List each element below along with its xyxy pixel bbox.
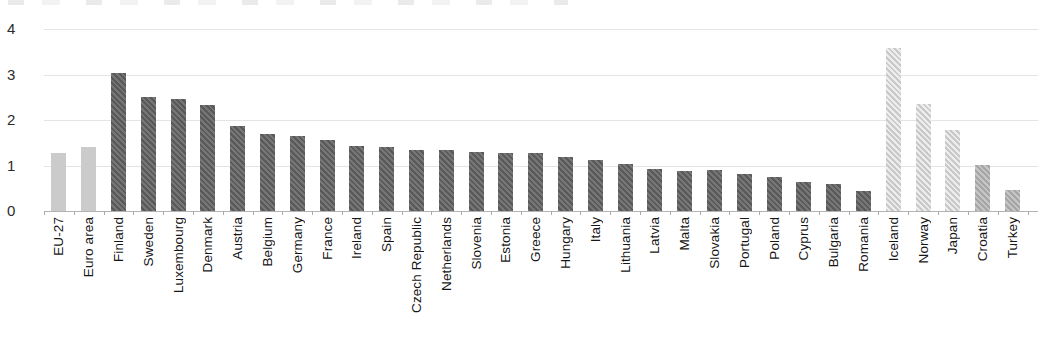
x-label-text: EU-27 — [51, 217, 66, 256]
bar-estonia — [498, 153, 513, 211]
bar-euro-area — [81, 147, 96, 211]
x-axis-tick — [521, 211, 522, 215]
x-label-france: France — [312, 217, 342, 349]
gridline-4 — [44, 29, 1038, 30]
x-axis-tick — [908, 211, 909, 215]
x-label-text: Bulgaria — [826, 217, 841, 267]
bar-czech-republic — [409, 150, 424, 211]
x-axis-tick — [819, 211, 820, 215]
x-label-text: Malta — [677, 217, 692, 251]
x-axis-tick — [44, 211, 45, 215]
x-axis-tick — [163, 211, 164, 215]
bar-eu-27 — [51, 153, 66, 211]
x-label-cyprus: Cyprus — [789, 217, 819, 349]
bar-spain — [379, 147, 394, 211]
bar-austria — [230, 126, 245, 211]
x-label-text: Cyprus — [796, 217, 811, 260]
x-label-text: Netherlands — [439, 217, 454, 291]
x-label-text: Slovenia — [469, 217, 484, 270]
bar-netherlands — [439, 150, 454, 211]
bar-turkey — [1005, 190, 1020, 211]
y-tick-label-3: 3 — [7, 67, 35, 83]
x-label-bulgaria: Bulgaria — [819, 217, 849, 349]
x-axis-tick — [551, 211, 552, 215]
x-label-text: Germany — [290, 217, 305, 273]
x-axis-tick — [133, 211, 134, 215]
x-axis-tick — [342, 211, 343, 215]
x-label-text: Finland — [111, 217, 126, 262]
x-label-text: Denmark — [200, 217, 215, 272]
bar-denmark — [200, 105, 215, 211]
x-axis-tick — [461, 211, 462, 215]
x-axis-tick — [74, 211, 75, 215]
bar-ireland — [349, 146, 364, 211]
x-label-turkey: Turkey — [998, 217, 1028, 349]
x-axis-tick — [491, 211, 492, 215]
x-label-finland: Finland — [104, 217, 134, 349]
x-label-text: Turkey — [1005, 217, 1020, 258]
x-axis-tick — [253, 211, 254, 215]
x-label-slovakia: Slovakia — [700, 217, 730, 349]
x-label-text: Belgium — [260, 217, 275, 266]
x-label-portugal: Portugal — [729, 217, 759, 349]
x-label-slovenia: Slovenia — [461, 217, 491, 349]
x-label-text: Portugal — [737, 217, 752, 268]
x-axis-tick — [849, 211, 850, 215]
bar-greece — [528, 153, 543, 211]
x-axis-tick — [998, 211, 999, 215]
x-label-text: Romania — [856, 217, 871, 272]
x-label-lithuania: Lithuania — [610, 217, 640, 349]
bar-malta — [677, 171, 692, 211]
x-axis-tick — [759, 211, 760, 215]
x-label-text: Croatia — [975, 217, 990, 261]
x-label-text: Euro area — [81, 217, 96, 277]
x-axis-tick — [729, 211, 730, 215]
x-label-text: Lithuania — [618, 217, 633, 273]
x-label-text: France — [320, 217, 335, 260]
y-tick-label-4: 4 — [7, 21, 35, 37]
x-label-greece: Greece — [521, 217, 551, 349]
x-label-text: Latvia — [647, 217, 662, 254]
cropped-text-remnant — [8, 0, 568, 5]
bar-latvia — [647, 169, 662, 211]
x-label-poland: Poland — [759, 217, 789, 349]
bar-iceland — [886, 48, 901, 211]
x-label-text: Norway — [916, 217, 931, 263]
x-label-iceland: Iceland — [878, 217, 908, 349]
x-label-text: Poland — [767, 217, 782, 260]
x-axis-tick — [640, 211, 641, 215]
x-axis-tick — [700, 211, 701, 215]
x-axis-tick — [372, 211, 373, 215]
x-label-text: Luxembourg — [171, 217, 186, 293]
x-label-text: Slovakia — [707, 217, 722, 269]
bar-lithuania — [618, 164, 633, 211]
x-label-text: Austria — [230, 217, 245, 260]
y-tick-label-1: 1 — [7, 158, 35, 174]
x-label-text: Czech Republic — [409, 217, 424, 313]
x-label-text: Sweden — [141, 217, 156, 266]
x-label-japan: Japan — [938, 217, 968, 349]
x-label-denmark: Denmark — [193, 217, 223, 349]
bar-belgium — [260, 134, 275, 211]
y-tick-label-2: 2 — [7, 112, 35, 128]
x-axis-tick — [1028, 211, 1029, 215]
x-label-eu-27: EU-27 — [44, 217, 74, 349]
bar-germany — [290, 136, 305, 211]
x-axis-tick — [312, 211, 313, 215]
x-label-norway: Norway — [908, 217, 938, 349]
x-label-text: Japan — [945, 217, 960, 254]
x-label-croatia: Croatia — [968, 217, 998, 349]
x-axis-tick — [193, 211, 194, 215]
x-label-text: Spain — [379, 217, 394, 252]
x-label-text: Estonia — [498, 217, 513, 263]
x-label-text: Hungary — [558, 217, 573, 269]
bar-japan — [945, 130, 960, 211]
x-axis-tick — [223, 211, 224, 215]
bar-romania — [856, 191, 871, 211]
x-axis-tick — [968, 211, 969, 215]
x-label-romania: Romania — [849, 217, 879, 349]
bar-poland — [767, 177, 782, 211]
bar-slovenia — [469, 152, 484, 211]
x-axis-tick — [580, 211, 581, 215]
x-axis-tick — [789, 211, 790, 215]
